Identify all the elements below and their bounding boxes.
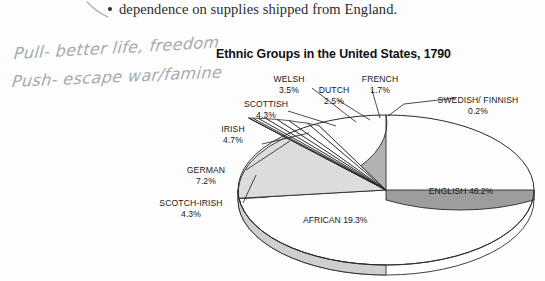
callout-german: GERMAN 7.2% bbox=[177, 165, 235, 186]
callout-french: FRENCH 1.7% bbox=[355, 74, 405, 95]
callout-dutch-value: 2.5% bbox=[312, 96, 356, 107]
pie-3d-base bbox=[238, 190, 534, 275]
callout-scottish-label: SCOTTISH bbox=[244, 99, 288, 109]
callout-welsh-value: 3.5% bbox=[262, 85, 316, 96]
callout-welsh-label: WELSH bbox=[273, 74, 304, 84]
slice-label-english: ENGLISH 48.2% bbox=[426, 186, 496, 197]
callout-swedish-finnish-label: SWEDISH/ FINNISH bbox=[438, 95, 519, 105]
pie-chart bbox=[0, 0, 545, 281]
callout-irish: IRISH 4.7% bbox=[212, 124, 254, 145]
slice-label-english-value: 48.2% bbox=[469, 186, 493, 196]
slice-label-english-name: ENGLISH bbox=[429, 186, 467, 196]
callout-scottish: SCOTTISH 4.3% bbox=[237, 99, 295, 120]
callout-german-label: GERMAN bbox=[187, 165, 225, 175]
callout-scottish-value: 4.3% bbox=[237, 110, 295, 121]
callout-swedish-finnish: SWEDISH/ FINNISH 0.2% bbox=[418, 95, 538, 116]
slice-label-african-value: 19.3% bbox=[343, 215, 367, 225]
callout-dutch: DUTCH 2.5% bbox=[312, 85, 356, 106]
callout-swedish-finnish-value: 0.2% bbox=[418, 106, 538, 117]
callout-scotch-irish: SCOTCH-IRISH 4.3% bbox=[147, 198, 235, 219]
scanned-page: dependence on supplies shipped from Engl… bbox=[0, 0, 545, 281]
callout-french-label: FRENCH bbox=[362, 74, 398, 84]
slice-label-african-name: AFRICAN bbox=[303, 215, 341, 225]
callout-welsh: WELSH 3.5% bbox=[262, 74, 316, 95]
callout-german-value: 7.2% bbox=[177, 176, 235, 187]
callout-scotch-irish-value: 4.3% bbox=[147, 209, 235, 220]
callout-irish-value: 4.7% bbox=[212, 135, 254, 146]
callout-french-value: 1.7% bbox=[355, 85, 405, 96]
callout-dutch-label: DUTCH bbox=[319, 85, 350, 95]
slice-label-african: AFRICAN 19.3% bbox=[303, 215, 367, 226]
callout-irish-label: IRISH bbox=[221, 124, 244, 134]
callout-scotch-irish-label: SCOTCH-IRISH bbox=[159, 198, 222, 208]
